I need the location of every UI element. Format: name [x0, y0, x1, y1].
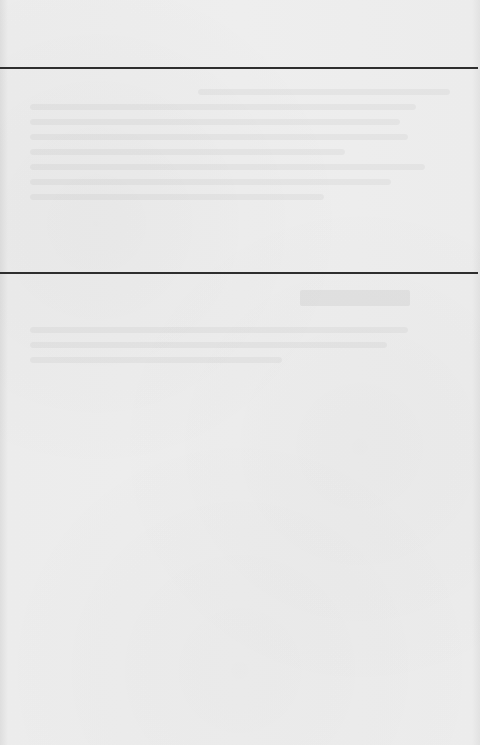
- horizontal-rule-top: [0, 67, 478, 69]
- horizontal-rule-middle: [0, 272, 478, 274]
- bleed-through-text-block: [30, 80, 450, 209]
- bleed-through-text-block: [30, 318, 450, 372]
- bleed-through-heading: [300, 290, 410, 306]
- paper-page: [0, 0, 480, 745]
